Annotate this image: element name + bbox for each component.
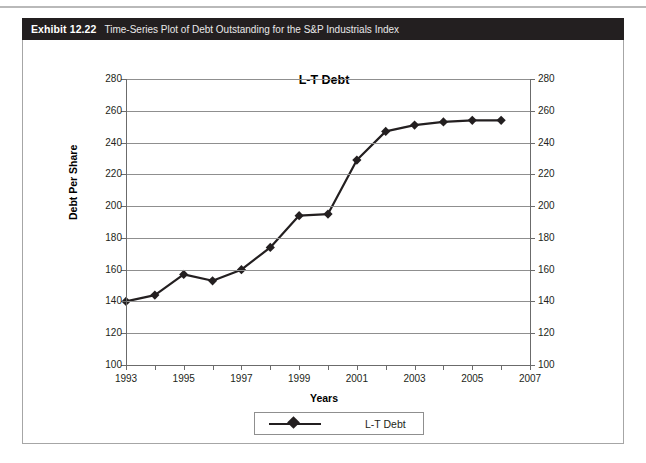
x-tick-1994 bbox=[155, 365, 156, 370]
x-tick-2006 bbox=[501, 365, 502, 370]
exhibit-body: L-T Debt Debt Per Share 1001001201201401… bbox=[22, 40, 624, 444]
gridline-y-160 bbox=[126, 270, 530, 271]
x-tick-2003 bbox=[415, 365, 416, 370]
x-axis-label-2005: 2005 bbox=[452, 373, 492, 384]
y-axis-label-left-280: 280 bbox=[86, 73, 122, 84]
page-top-rule bbox=[0, 6, 646, 8]
data-point-2005 bbox=[468, 116, 477, 125]
y-axis-label-right-120: 120 bbox=[538, 327, 574, 338]
legend-marker-icon bbox=[269, 418, 321, 430]
exhibit-label: Exhibit 12.22 bbox=[31, 23, 97, 35]
x-tick-1999 bbox=[299, 365, 300, 370]
y-axis-label-left-260: 260 bbox=[86, 105, 122, 116]
gridline-y-240 bbox=[126, 143, 530, 144]
x-tick-1995 bbox=[184, 365, 185, 370]
x-axis-label-2007: 2007 bbox=[510, 373, 550, 384]
exhibit-container: Exhibit 12.22 Time-Series Plot of Debt O… bbox=[22, 18, 624, 444]
exhibit-header: Exhibit 12.22 Time-Series Plot of Debt O… bbox=[22, 18, 624, 40]
y-axis-label-right-140: 140 bbox=[538, 295, 574, 306]
y-axis-label-left-240: 240 bbox=[86, 137, 122, 148]
y-axis-label-left-120: 120 bbox=[86, 327, 122, 338]
x-tick-2001 bbox=[357, 365, 358, 370]
data-point-2006 bbox=[497, 116, 506, 125]
x-axis-title: Years bbox=[23, 392, 625, 404]
plot-area: 1001001201201401401601601801802002002202… bbox=[126, 79, 530, 365]
gridline-y-280 bbox=[126, 79, 530, 80]
x-tick-2002 bbox=[386, 365, 387, 370]
y-axis-label-right-160: 160 bbox=[538, 264, 574, 275]
gridline-y-120 bbox=[126, 333, 530, 334]
y-axis-label-right-260: 260 bbox=[538, 105, 574, 116]
y-axis-label-left-100: 100 bbox=[86, 359, 122, 370]
y-axis-label-left-180: 180 bbox=[86, 232, 122, 243]
y-axis-right bbox=[530, 79, 531, 365]
x-axis-label-1995: 1995 bbox=[164, 373, 204, 384]
y-axis-title: Debt Per Share bbox=[67, 145, 79, 220]
y-axis-label-left-200: 200 bbox=[86, 200, 122, 211]
gridline-y-180 bbox=[126, 238, 530, 239]
series-line-ltdebt bbox=[126, 79, 530, 365]
data-point-1996 bbox=[208, 276, 217, 285]
gridline-y-220 bbox=[126, 174, 530, 175]
exhibit-caption: Time-Series Plot of Debt Outstanding for… bbox=[105, 24, 400, 35]
chart-area: L-T Debt Debt Per Share 1001001201201401… bbox=[23, 40, 625, 444]
y-axis-label-right-100: 100 bbox=[538, 359, 574, 370]
y-axis-label-right-180: 180 bbox=[538, 232, 574, 243]
legend-label: L-T Debt bbox=[365, 418, 406, 430]
data-point-2000 bbox=[323, 209, 332, 218]
y-axis-label-left-140: 140 bbox=[86, 295, 122, 306]
data-point-2003 bbox=[410, 120, 419, 129]
x-axis-label-2003: 2003 bbox=[395, 373, 435, 384]
y-axis-label-right-200: 200 bbox=[538, 200, 574, 211]
x-tick-1993 bbox=[126, 365, 127, 370]
data-point-2004 bbox=[439, 117, 448, 126]
x-tick-2004 bbox=[443, 365, 444, 370]
x-axis-label-2001: 2001 bbox=[337, 373, 377, 384]
y-axis-label-left-220: 220 bbox=[86, 168, 122, 179]
x-tick-1998 bbox=[270, 365, 271, 370]
x-axis-label-1993: 1993 bbox=[106, 373, 146, 384]
y-axis-label-right-240: 240 bbox=[538, 137, 574, 148]
x-axis-label-1997: 1997 bbox=[221, 373, 261, 384]
gridline-y-200 bbox=[126, 206, 530, 207]
gridline-y-260 bbox=[126, 111, 530, 112]
x-tick-1996 bbox=[213, 365, 214, 370]
x-tick-1997 bbox=[241, 365, 242, 370]
x-tick-2005 bbox=[472, 365, 473, 370]
y-axis-left bbox=[126, 79, 127, 365]
x-tick-2007 bbox=[530, 365, 531, 370]
y-axis-label-left-160: 160 bbox=[86, 264, 122, 275]
x-tick-2000 bbox=[328, 365, 329, 370]
chart-legend: L-T Debt bbox=[254, 412, 424, 435]
y-axis-label-right-280: 280 bbox=[538, 73, 574, 84]
x-axis-label-1999: 1999 bbox=[279, 373, 319, 384]
gridline-y-140 bbox=[126, 301, 530, 302]
y-axis-label-right-220: 220 bbox=[538, 168, 574, 179]
page-root: Exhibit 12.22 Time-Series Plot of Debt O… bbox=[0, 0, 646, 463]
